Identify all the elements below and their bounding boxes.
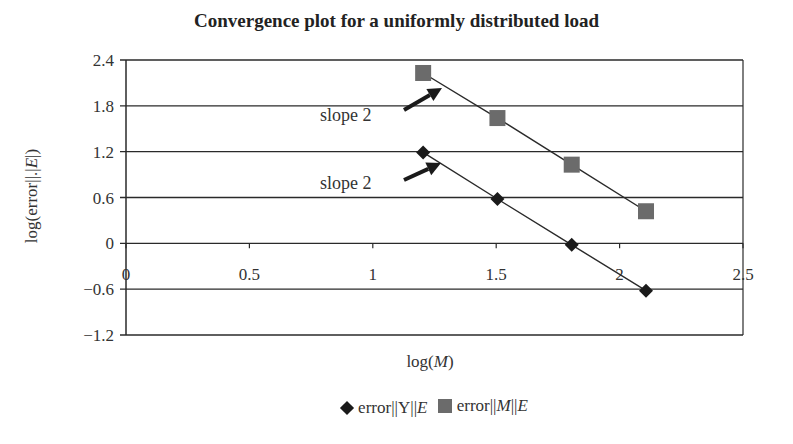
data-series	[415, 65, 654, 298]
y-tick-label: 0.6	[93, 189, 114, 208]
y-tick-label: 1.8	[93, 97, 114, 116]
x-axis-label: log(M)	[0, 352, 793, 372]
y-tick-label: −1.2	[83, 326, 114, 345]
y-axis-label: log(error||.|E|)	[22, 149, 42, 243]
x-tick-label: 0.5	[239, 265, 260, 284]
x-tick-label: 1	[369, 265, 378, 284]
square-marker-icon	[438, 399, 452, 413]
diamond-marker-icon	[340, 401, 354, 415]
plot-area: 2.41.81.20.60−0.6−1.200.511.522.5 slope …	[0, 0, 793, 444]
y-tick-label: 1.2	[93, 143, 114, 162]
y-tick-label: 2.4	[93, 51, 115, 70]
x-tick-label: 2.5	[732, 265, 753, 284]
square-marker	[564, 157, 580, 173]
y-tick-label: 0	[106, 234, 115, 253]
arrow-icon	[404, 162, 441, 180]
legend-item-y: error||Y||E	[342, 398, 427, 418]
arrow-icon	[404, 88, 442, 110]
square-marker	[415, 65, 431, 81]
diamond-marker	[490, 192, 504, 206]
y-tick-label: −0.6	[83, 280, 114, 299]
x-tick-label: 1.5	[486, 265, 507, 284]
slope-annotation-lower: slope 2	[320, 173, 372, 193]
diamond-marker	[416, 145, 430, 159]
annotations: slope 2slope 2	[320, 88, 442, 193]
legend-item-m: error||M||E	[438, 396, 528, 416]
x-tick-label: 0	[122, 265, 131, 284]
series-line	[423, 152, 646, 290]
legend: error||Y||E error||M||E	[0, 396, 793, 418]
slope-annotation-upper: slope 2	[320, 105, 372, 125]
square-marker	[638, 203, 654, 219]
series-line	[423, 73, 646, 211]
diamond-marker	[565, 238, 579, 252]
square-marker	[489, 110, 505, 126]
diamond-marker	[639, 284, 653, 298]
